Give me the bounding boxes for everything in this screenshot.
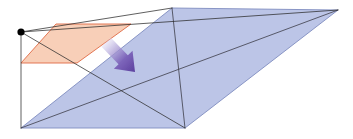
- projection-diagram: [0, 0, 353, 139]
- projection-center-dot: [17, 28, 24, 35]
- diagram-canvas: [0, 0, 353, 139]
